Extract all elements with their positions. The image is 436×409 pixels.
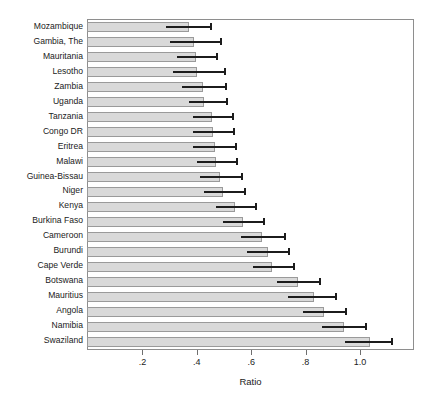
error-bar-line: [193, 146, 237, 148]
x-tick: [306, 350, 307, 355]
category-label: Lesotho: [52, 66, 83, 76]
bar: [87, 277, 298, 287]
bar-row: [87, 142, 412, 152]
category-label: Burkina Faso: [32, 215, 83, 225]
category-label: Uganda: [53, 96, 83, 106]
error-bar-line: [322, 326, 367, 328]
error-bar-line: [223, 221, 265, 223]
error-bar-line: [216, 206, 257, 208]
bar: [87, 262, 272, 272]
x-tick: [197, 350, 198, 355]
error-bar-cap: [263, 218, 265, 225]
error-bar-line: [247, 251, 289, 253]
error-bar-line: [200, 176, 244, 178]
error-bar-cap: [345, 308, 347, 315]
bar-row: [87, 67, 412, 77]
category-label: Zambia: [54, 81, 83, 91]
error-bar-line: [166, 26, 212, 28]
bar-row: [87, 82, 412, 92]
bar-row: [87, 22, 412, 32]
bar-row: [87, 187, 412, 197]
bars-layer: [87, 19, 414, 350]
error-bar-cap: [233, 128, 235, 135]
bar-row: [87, 52, 412, 62]
error-bar-cap: [391, 338, 393, 345]
ratio-bar-chart-figure: MozambiqueGambia, TheMauritaniaLesothoZa…: [0, 0, 436, 409]
bar-row: [87, 232, 412, 242]
error-bar-line: [277, 281, 321, 283]
bar-row: [87, 247, 412, 257]
error-bar-cap: [235, 143, 237, 150]
bar-row: [87, 322, 412, 332]
error-bar-line: [189, 101, 228, 103]
category-label: Congo DR: [43, 126, 83, 136]
bar-row: [87, 292, 412, 302]
x-tick-label: .6: [247, 357, 255, 367]
category-label: Mauritania: [43, 51, 83, 61]
error-bar-cap: [224, 68, 226, 75]
error-bar-line: [173, 71, 226, 73]
error-bar-cap: [216, 53, 218, 60]
error-bar-line: [303, 311, 347, 313]
error-bar-cap: [288, 248, 290, 255]
error-bar-cap: [319, 278, 321, 285]
bar-row: [87, 157, 412, 167]
error-bar-cap: [365, 323, 367, 330]
x-tick-label: .2: [139, 357, 147, 367]
x-tick-label: .4: [193, 357, 201, 367]
bar-row: [87, 217, 412, 227]
error-bar-line: [193, 116, 234, 118]
category-label: Cameroon: [43, 230, 83, 240]
bar: [87, 187, 223, 197]
bar-row: [87, 307, 412, 317]
error-bar-line: [170, 41, 222, 43]
category-label: Guinea-Bissau: [27, 171, 83, 181]
category-label: Eritrea: [58, 141, 83, 151]
category-label: Swaziland: [44, 335, 83, 345]
bar-row: [87, 337, 412, 347]
error-bar-cap: [236, 158, 238, 165]
error-bar-line: [193, 131, 235, 133]
error-bar-cap: [232, 113, 234, 120]
error-bar-line: [182, 86, 227, 88]
error-bar-line: [204, 191, 246, 193]
error-bar-cap: [241, 173, 243, 180]
category-label: Gambia, The: [33, 36, 83, 46]
bar-row: [87, 97, 412, 107]
error-bar-line: [241, 236, 286, 238]
error-bar-cap: [293, 263, 295, 270]
x-axis-title: Ratio: [87, 376, 414, 387]
category-label: Angola: [56, 305, 83, 315]
category-label: Namibia: [51, 320, 83, 330]
category-label: Kenya: [59, 200, 83, 210]
error-bar-cap: [244, 188, 246, 195]
category-label: Botswana: [45, 275, 83, 285]
x-tick: [251, 350, 252, 355]
category-label: Mozambique: [34, 21, 83, 31]
bar-row: [87, 172, 412, 182]
x-tick-label: .8: [302, 357, 310, 367]
bar: [87, 337, 370, 347]
plot-frame: [87, 19, 414, 350]
error-bar-cap: [335, 293, 337, 300]
error-bar-cap: [225, 83, 227, 90]
error-bar-line: [345, 341, 393, 343]
category-label: Malawi: [56, 156, 83, 166]
error-bar-cap: [284, 233, 286, 240]
bar: [87, 217, 243, 227]
x-tick: [360, 350, 361, 355]
error-bar-line: [197, 161, 238, 163]
bar-row: [87, 112, 412, 122]
bar-row: [87, 277, 412, 287]
bar-row: [87, 127, 412, 137]
bar-row: [87, 37, 412, 47]
category-axis: MozambiqueGambia, TheMauritaniaLesothoZa…: [0, 19, 83, 350]
error-bar-cap: [220, 38, 222, 45]
x-tick-label: 1.0: [354, 357, 367, 367]
category-label: Tanzania: [49, 111, 83, 121]
bar: [87, 232, 262, 242]
bar: [87, 307, 324, 317]
error-bar-line: [177, 56, 218, 58]
bar: [87, 97, 204, 107]
bar-row: [87, 202, 412, 212]
